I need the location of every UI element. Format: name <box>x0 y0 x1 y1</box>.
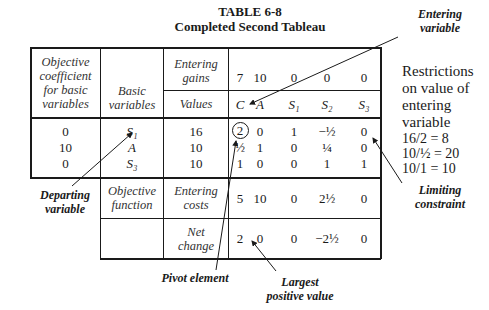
arrow-limiting-constraint <box>373 138 402 183</box>
arrow-largest-positive <box>252 241 276 271</box>
arrow-departing-variable <box>72 133 132 186</box>
annotation-arrows <box>0 0 489 310</box>
arrow-entering-variable <box>250 37 398 104</box>
arrow-pivot-element <box>216 141 236 270</box>
